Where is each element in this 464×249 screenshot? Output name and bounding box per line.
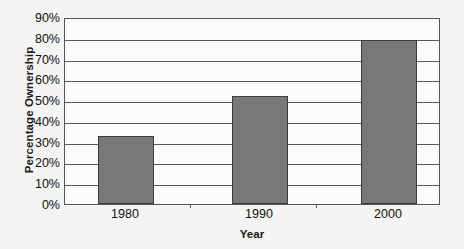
bar-chart: Percentage Ownership 90% 80% 70% 60% 50%… [0, 0, 464, 249]
y-tick-label: 40% [20, 116, 60, 129]
bar-1980 [98, 136, 154, 204]
plot-area [64, 18, 440, 205]
y-tick-label: 20% [20, 157, 60, 170]
x-axis-tick-labels: 1980 1990 2000 [64, 208, 440, 226]
bar-2000 [361, 40, 417, 204]
y-tick-label: 30% [20, 137, 60, 150]
y-tick-label: 50% [20, 95, 60, 108]
y-tick-label: 70% [20, 54, 60, 67]
bar-1990 [232, 96, 288, 204]
x-tick-label: 2000 [338, 208, 438, 221]
x-tick-label: 1990 [209, 208, 309, 221]
x-axis-title: Year [64, 228, 440, 240]
y-tick-label: 10% [20, 178, 60, 191]
x-tick-label: 1980 [75, 208, 175, 221]
y-tick-label: 90% [20, 12, 60, 25]
y-tick-label: 0% [20, 199, 60, 212]
y-axis-tick-labels: 90% 80% 70% 60% 50% 40% 30% 20% 10% 0% [16, 0, 60, 249]
y-tick-label: 80% [20, 33, 60, 46]
y-tick-label: 60% [20, 74, 60, 87]
